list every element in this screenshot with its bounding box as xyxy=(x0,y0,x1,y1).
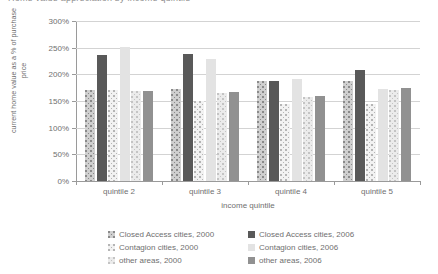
bar-chart: current home value as a % of purchase pr… xyxy=(0,9,438,225)
legend-item[interactable]: Contagion cities, 2006 xyxy=(248,243,398,252)
bar xyxy=(194,101,204,181)
legend-label: Contagion cities, 2006 xyxy=(259,243,338,252)
x-axis-tick xyxy=(334,181,335,185)
bar xyxy=(171,89,181,181)
bar xyxy=(269,81,279,181)
legend-item[interactable]: Closed Access cities, 2000 xyxy=(108,230,248,239)
bar-group xyxy=(162,21,248,181)
bar xyxy=(389,90,399,181)
x-axis-tick xyxy=(162,181,163,185)
legend-swatch-icon xyxy=(108,244,115,251)
bar xyxy=(280,104,290,181)
bar xyxy=(257,81,267,181)
legend-item[interactable]: Closed Access cities, 2006 xyxy=(248,230,398,239)
bar xyxy=(183,54,193,181)
legend-swatch-icon xyxy=(248,244,255,251)
bar xyxy=(229,92,239,181)
legend-label: Closed Access cities, 2000 xyxy=(119,230,214,239)
legend-swatch-icon xyxy=(108,231,115,238)
bar xyxy=(315,96,325,181)
legend-item[interactable]: other areas, 2000 xyxy=(108,256,248,265)
bar xyxy=(120,47,130,181)
bars-layer xyxy=(76,21,420,181)
legend-swatch-icon xyxy=(248,231,255,238)
chart-title-strip: Home value appreciation by income quinti… xyxy=(0,0,438,9)
bar xyxy=(131,91,141,181)
x-axis-tick-label: quintile 3 xyxy=(189,187,221,196)
bar xyxy=(143,91,153,181)
legend-label: other areas, 2006 xyxy=(259,256,322,265)
bar xyxy=(355,70,365,181)
y-axis-tick-label: 0% xyxy=(57,177,69,186)
x-axis-tick xyxy=(420,181,421,185)
bar xyxy=(217,93,227,181)
x-axis-tick xyxy=(76,181,77,185)
legend-label: Closed Access cities, 2006 xyxy=(259,230,354,239)
bar xyxy=(366,104,376,181)
x-axis-tick-label: quintile 2 xyxy=(103,187,135,196)
y-axis-tick-label: 100% xyxy=(49,123,69,132)
y-axis-tick-label: 50% xyxy=(53,150,69,159)
legend-item[interactable]: Contagion cities, 2000 xyxy=(108,243,248,252)
chart-legend: Closed Access cities, 2000Closed Access … xyxy=(108,228,398,267)
bar xyxy=(206,59,216,181)
bar xyxy=(85,90,95,181)
bar xyxy=(97,55,107,181)
legend-swatch-icon xyxy=(108,257,115,264)
bar-group xyxy=(248,21,334,181)
y-axis-title: current home value as a % of purchase pr… xyxy=(9,1,28,141)
x-axis-tick-label: quintile 5 xyxy=(361,187,393,196)
legend-label: other areas, 2000 xyxy=(119,256,182,265)
legend-swatch-icon xyxy=(248,257,255,264)
x-axis-title: income quintile xyxy=(76,201,420,210)
bar xyxy=(343,81,353,181)
x-axis-tick xyxy=(248,181,249,185)
legend-item[interactable]: other areas, 2006 xyxy=(248,256,398,265)
plot-area: 0%50%100%150%200%250%300% xyxy=(76,21,420,181)
y-axis-tick-label: 200% xyxy=(49,70,69,79)
x-axis-tick-label: quintile 4 xyxy=(275,187,307,196)
bar-group xyxy=(76,21,162,181)
bar xyxy=(108,90,118,181)
bar xyxy=(401,88,411,181)
y-axis-tick-label: 150% xyxy=(49,97,69,106)
bar xyxy=(292,79,302,181)
y-axis-tick-label: 300% xyxy=(49,17,69,26)
legend-label: Contagion cities, 2000 xyxy=(119,243,198,252)
bar-group xyxy=(334,21,420,181)
bar xyxy=(378,89,388,181)
page-title: Home value appreciation by income quinti… xyxy=(8,0,191,3)
y-axis-tick-label: 250% xyxy=(49,43,69,52)
bar xyxy=(303,97,313,181)
